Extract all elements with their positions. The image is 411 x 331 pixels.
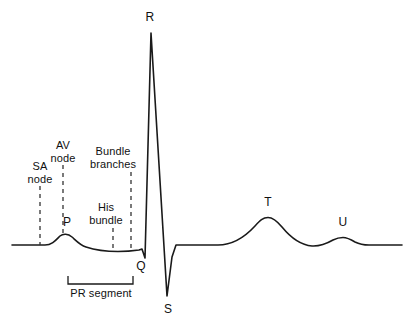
wave-label-t: T [262, 196, 274, 208]
ecg-diagram: SA node AV node Bundle branches His bund… [0, 0, 411, 331]
pr-segment-bracket [68, 276, 133, 284]
label-pr-segment: PR segment [60, 287, 142, 299]
label-his-bundle: His bundle [84, 201, 128, 226]
label-av-node: AV node [41, 139, 85, 164]
wave-label-p: P [61, 216, 73, 228]
ecg-trace [12, 33, 402, 296]
wave-label-s: S [162, 303, 174, 315]
wave-label-r: R [144, 11, 156, 23]
label-bundle-branches: Bundle branches [84, 145, 142, 170]
wave-label-u: U [337, 216, 349, 228]
wave-label-q: Q [135, 260, 147, 272]
